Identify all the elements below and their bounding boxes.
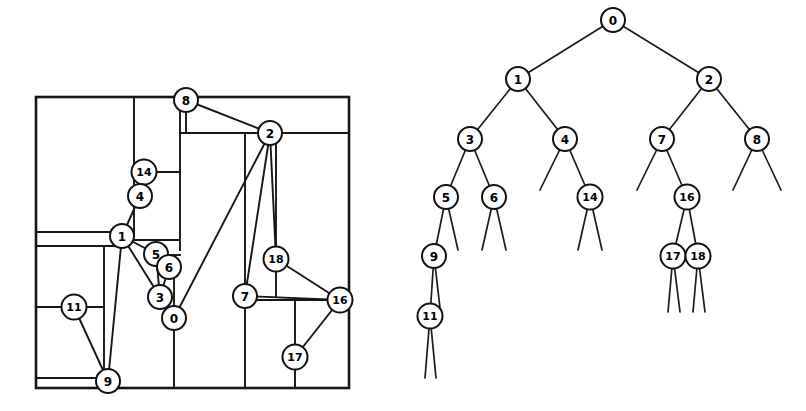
tree-node-6[interactable]: 6 — [482, 185, 506, 209]
node-label: 14 — [136, 166, 152, 179]
tree-node-2[interactable]: 2 — [697, 67, 721, 91]
tree-node-17[interactable]: 17 — [661, 244, 686, 269]
node-label: 6 — [490, 191, 498, 205]
dissection-node-1[interactable]: 1 — [110, 224, 134, 248]
node-label: 0 — [609, 14, 617, 28]
tree-edge — [518, 20, 613, 79]
node-label: 18 — [690, 250, 705, 263]
dissection-node-9[interactable]: 9 — [96, 369, 120, 393]
node-label: 11 — [66, 301, 81, 314]
tree-node-18[interactable]: 18 — [686, 244, 711, 269]
adjacency-edge — [108, 236, 122, 381]
tree-node-4[interactable]: 4 — [553, 127, 577, 151]
dissection-node-17[interactable]: 17 — [283, 345, 308, 370]
node-label: 2 — [705, 73, 713, 87]
node-label: 2 — [266, 127, 274, 141]
node-label: 6 — [165, 261, 173, 275]
node-label: 17 — [665, 250, 680, 263]
node-label: 7 — [658, 133, 666, 147]
tree-node-0[interactable]: 0 — [601, 8, 625, 32]
node-label: 18 — [268, 253, 283, 266]
dissection-frame — [36, 97, 349, 388]
node-label: 8 — [182, 94, 190, 108]
tree-node-7[interactable]: 7 — [650, 127, 674, 151]
tree-node-11[interactable]: 11 — [418, 304, 443, 329]
tree-node-1[interactable]: 1 — [506, 67, 530, 91]
dissection-node-6[interactable]: 6 — [157, 255, 181, 279]
tree-edge — [613, 20, 709, 79]
tree-node-14[interactable]: 14 — [578, 185, 603, 210]
dissection-node-8[interactable]: 8 — [174, 88, 198, 112]
node-label: 9 — [104, 375, 112, 389]
dissection-partition-group — [36, 97, 349, 388]
dissection-node-3[interactable]: 3 — [148, 285, 172, 309]
figure-canvas: 82144156183716011179 0123478561416917181… — [0, 0, 806, 411]
node-label: 4 — [136, 190, 144, 204]
node-label: 8 — [753, 133, 761, 147]
dissection-node-0[interactable]: 0 — [162, 306, 186, 330]
tree-node-9[interactable]: 9 — [422, 244, 446, 268]
node-label: 4 — [561, 133, 569, 147]
tree-node-8[interactable]: 8 — [745, 127, 769, 151]
dissection-node-4[interactable]: 4 — [128, 184, 152, 208]
tree-node-3[interactable]: 3 — [458, 127, 482, 151]
figure-svg: 82144156183716011179 0123478561416917181… — [0, 0, 806, 411]
node-label: 14 — [582, 191, 598, 204]
node-label: 16 — [679, 191, 695, 204]
node-label: 11 — [422, 310, 437, 323]
node-label: 3 — [156, 291, 164, 305]
dissection-node-2[interactable]: 2 — [258, 121, 282, 145]
dissection-node-11[interactable]: 11 — [62, 295, 87, 320]
dissection-node-7[interactable]: 7 — [233, 284, 257, 308]
node-label: 1 — [514, 73, 522, 87]
node-label: 0 — [170, 312, 178, 326]
tree-node-16[interactable]: 16 — [675, 185, 700, 210]
node-label: 9 — [430, 250, 438, 264]
dissection-node-16[interactable]: 16 — [328, 288, 353, 313]
tree-stub-edge-group — [425, 139, 781, 378]
node-label: 7 — [241, 290, 249, 304]
node-label: 17 — [287, 351, 302, 364]
dissection-outer-border — [36, 97, 349, 388]
node-label: 1 — [118, 230, 126, 244]
adjacency-edge — [186, 100, 270, 133]
tree-edge-group — [430, 20, 757, 316]
tree-node-5[interactable]: 5 — [434, 185, 458, 209]
dissection-node-14[interactable]: 14 — [132, 160, 157, 185]
node-label: 5 — [442, 191, 450, 205]
dissection-node-18[interactable]: 18 — [264, 247, 289, 272]
node-label: 3 — [466, 133, 474, 147]
node-label: 16 — [332, 294, 348, 307]
tree-node-group: 01234785614169171811 — [418, 8, 770, 329]
